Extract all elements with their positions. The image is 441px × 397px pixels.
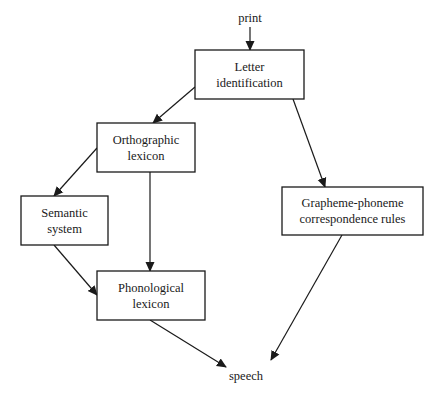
arrow-gpc-to-speech bbox=[271, 235, 342, 360]
nodes: LetteridentificationOrthographiclexiconS… bbox=[21, 50, 423, 320]
arrow-phono-to-speech bbox=[150, 320, 226, 367]
node-label: lexicon bbox=[128, 149, 166, 163]
terminal-print: print bbox=[238, 11, 262, 25]
arrow-semantic-to-phono bbox=[54, 245, 97, 295]
node-phono: Phonologicallexicon bbox=[97, 271, 205, 320]
node-label: correspondence rules bbox=[300, 212, 406, 226]
node-box bbox=[97, 271, 205, 320]
node-label: Grapheme-phoneme bbox=[301, 196, 403, 210]
node-box bbox=[97, 123, 195, 172]
node-box bbox=[21, 196, 108, 245]
terminal-speech: speech bbox=[229, 369, 264, 383]
dual-route-reading-diagram: LetteridentificationOrthographiclexiconS… bbox=[0, 0, 441, 397]
arrow-letter-to-gpc bbox=[293, 99, 325, 187]
node-label: system bbox=[47, 222, 82, 236]
node-label: lexicon bbox=[133, 297, 171, 311]
node-label: Letter bbox=[235, 60, 266, 74]
node-box bbox=[195, 50, 304, 99]
node-semantic: Semanticsystem bbox=[21, 196, 108, 245]
arrow-letter-to-ortho bbox=[153, 87, 195, 123]
node-label: Phonological bbox=[118, 281, 184, 295]
node-gpc: Grapheme-phonemecorrespondence rules bbox=[282, 187, 423, 235]
node-label: Semantic bbox=[41, 206, 88, 220]
node-ortho: Orthographiclexicon bbox=[97, 123, 195, 172]
node-box bbox=[282, 187, 423, 235]
arrow-ortho-to-semantic bbox=[54, 148, 97, 196]
node-label: identification bbox=[216, 76, 283, 90]
node-label: Orthographic bbox=[113, 133, 180, 147]
node-letter: Letteridentification bbox=[195, 50, 304, 99]
